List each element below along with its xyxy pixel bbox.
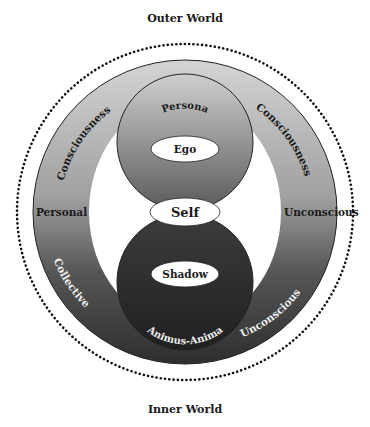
ring-label-left: Personal [36, 206, 87, 218]
psyche-diagram: Outer World Inner World Consciousness Co… [0, 0, 370, 427]
inner-world-label: Inner World [148, 403, 223, 416]
shadow-label: Shadow [162, 268, 208, 280]
ring-label-right: Unconscious [284, 206, 359, 218]
self-label: Self [171, 205, 201, 220]
outer-world-label: Outer World [147, 12, 223, 25]
ego-label: Ego [174, 143, 196, 155]
